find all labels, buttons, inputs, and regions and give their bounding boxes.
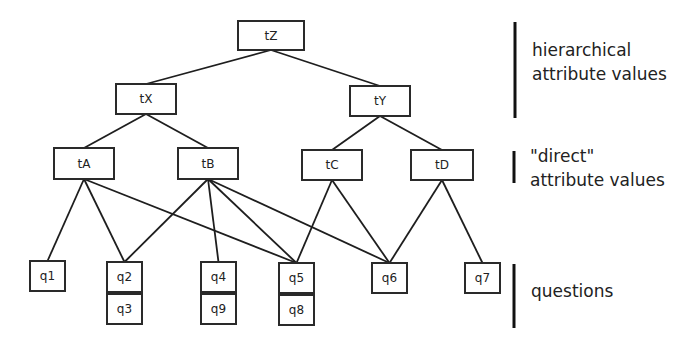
edge-tX-tB	[146, 114, 208, 148]
legend-text-hierarchical-line2: attribute values	[532, 64, 667, 84]
attribute-question-diagram: tZtXtYtAtBtCtDq1q2q3q4q9q5q8q6q7 hierarc…	[0, 0, 700, 348]
node-label-q6: q6	[382, 271, 397, 285]
node-label-q1: q1	[40, 269, 55, 283]
node-q5: q5	[279, 263, 314, 293]
legend-text-hierarchical-line1: hierarchical	[532, 40, 631, 60]
node-label-q2: q2	[117, 270, 132, 284]
node-q1: q1	[30, 261, 65, 291]
legend-text-questions: questions	[531, 281, 613, 301]
legend-direct: "direct" attribute values	[514, 146, 665, 190]
node-label-tD: tD	[435, 158, 449, 172]
node-q6: q6	[372, 263, 407, 293]
edge-tB-q2	[125, 179, 209, 262]
edge-tD-q6	[390, 180, 443, 263]
edge-tB-q5	[208, 179, 297, 263]
node-label-tC: tC	[325, 158, 338, 172]
node-label-tA: tA	[78, 157, 92, 171]
node-label-q7: q7	[475, 271, 490, 285]
node-q7: q7	[465, 263, 500, 293]
node-label-q9: q9	[211, 302, 226, 316]
nodes: tZtXtYtAtBtCtDq1q2q3q4q9q5q8q6q7	[30, 21, 500, 325]
node-tC: tC	[302, 150, 362, 180]
legend: hierarchical attribute values "direct" a…	[514, 22, 667, 328]
node-label-q3: q3	[117, 302, 132, 316]
legend-text-direct-line1: "direct"	[530, 146, 594, 166]
edge-tD-q7	[442, 180, 483, 263]
node-q9: q9	[201, 294, 236, 324]
node-tY: tY	[350, 86, 410, 116]
legend-text-direct-line2: attribute values	[530, 170, 665, 190]
node-label-tX: tX	[140, 92, 153, 106]
edge-tY-tC	[332, 116, 380, 150]
node-label-q8: q8	[289, 303, 304, 317]
node-tZ: tZ	[238, 21, 304, 50]
node-label-q5: q5	[289, 271, 304, 285]
edge-tB-q4	[208, 179, 219, 262]
node-label-tZ: tZ	[265, 29, 278, 43]
node-q2: q2	[107, 262, 142, 292]
node-q4: q4	[201, 262, 236, 292]
node-tA: tA	[54, 148, 114, 179]
edge-tA-q2	[84, 179, 125, 262]
edge-tY-tD	[380, 116, 442, 150]
node-label-tY: tY	[374, 94, 387, 108]
edge-tB-q6	[208, 179, 390, 263]
edge-tA-q1	[48, 179, 85, 261]
edge-tA-q5	[84, 179, 297, 263]
node-q3: q3	[107, 294, 142, 324]
node-label-tB: tB	[202, 157, 215, 171]
legend-hierarchical: hierarchical attribute values	[515, 22, 667, 118]
node-tB: tB	[178, 148, 238, 179]
node-label-q4: q4	[211, 270, 226, 284]
node-q8: q8	[279, 295, 314, 325]
node-tX: tX	[116, 84, 176, 114]
legend-questions: questions	[514, 264, 613, 328]
edge-tX-tA	[84, 114, 146, 148]
edge-tZ-tY	[271, 50, 380, 86]
node-tD: tD	[411, 150, 473, 180]
edge-tZ-tX	[146, 50, 271, 84]
